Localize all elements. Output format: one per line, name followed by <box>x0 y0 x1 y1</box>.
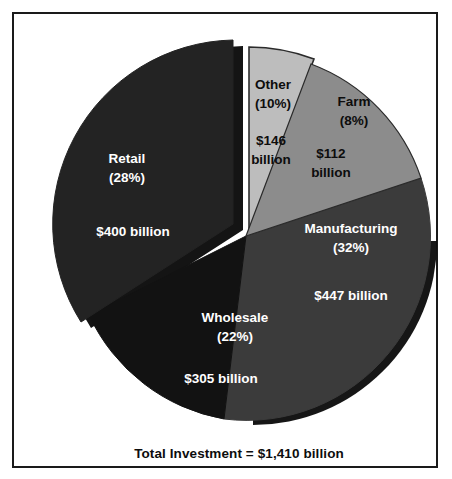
slice-label-manufacturing-name: Manufacturing <box>305 221 398 236</box>
slice-label-manufacturing-percent: (32%) <box>333 240 369 255</box>
slice-label-farm-name: Farm <box>337 94 370 109</box>
slice-label-farm-value: $112 <box>316 146 345 161</box>
total-investment-caption: Total Investment = $1,410 billion <box>28 446 450 461</box>
slice-label-wholesale-name: Wholesale <box>202 310 269 325</box>
slice-label-retail-name: Retail <box>109 151 146 166</box>
slice-label-other-name: Other <box>255 77 292 92</box>
slice-label-other-value: $146 <box>256 133 287 148</box>
slice-label-wholesale-value: $305 billion <box>184 371 258 386</box>
slice-label-wholesale-percent: (22%) <box>217 329 253 344</box>
pie-chart-svg: Other (10%) $146 billion Farm (8%) $112 … <box>28 28 452 438</box>
chart-frame-border: Other (10%) $146 billion Farm (8%) $112 … <box>12 12 438 468</box>
slice-label-farm-unit: billion <box>311 165 351 180</box>
slice-label-farm-percent: (8%) <box>340 113 369 128</box>
slice-label-retail-value: $400 billion <box>96 224 170 239</box>
slice-label-retail-percent: (28%) <box>109 170 145 185</box>
slice-label-other-percent: (10%) <box>255 96 291 111</box>
slice-label-other-unit: billion <box>251 152 291 167</box>
pie-chart-area: Other (10%) $146 billion Farm (8%) $112 … <box>28 28 452 438</box>
slice-label-manufacturing-value: $447 billion <box>314 288 388 303</box>
pie-chart-figure: Other (10%) $146 billion Farm (8%) $112 … <box>0 0 452 479</box>
